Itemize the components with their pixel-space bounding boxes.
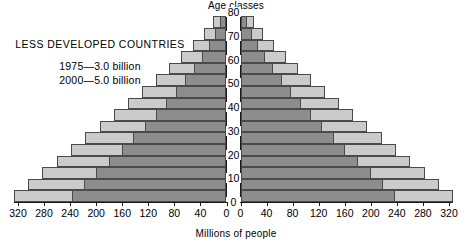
age-axis-tick-label: 20 (226, 150, 241, 160)
table-row (0, 51, 226, 63)
right-bar-1975 (241, 179, 383, 191)
pyramid-left-half (0, 12, 226, 202)
age-axis-tick-label: 40 (226, 102, 241, 112)
table-row (0, 98, 226, 110)
table-row (241, 132, 472, 144)
left-bar-1975 (215, 28, 226, 40)
left-bar-1975 (84, 179, 226, 191)
right-bar-1975 (241, 190, 395, 202)
left-bar-1975 (166, 98, 226, 110)
x-axis-line-left (14, 202, 227, 203)
left-bar-1975 (202, 51, 226, 63)
table-row (0, 167, 226, 179)
table-row (0, 86, 226, 98)
age-axis-tick-label: 60 (226, 55, 241, 65)
table-row (241, 121, 472, 133)
table-row (241, 74, 472, 86)
left-bar-1975 (96, 167, 226, 179)
table-row (0, 28, 226, 40)
x-axis-tick-label: 0 (224, 208, 230, 219)
table-row (241, 28, 472, 40)
population-pyramid-chart: Age classes LESS DEVELOPED COUNTRIES 197… (0, 0, 472, 248)
x-axis-tick-label: 120 (140, 208, 158, 219)
right-bar-1975 (241, 63, 273, 75)
x-axis-tick-label: 0 (238, 208, 244, 219)
x-axis-tick-label: 80 (287, 208, 299, 219)
table-row (241, 40, 472, 52)
table-row (241, 98, 472, 110)
left-bar-1975 (185, 74, 226, 86)
table-row (0, 74, 226, 86)
right-bar-1975 (241, 28, 252, 40)
x-axis-tick-label: 320 (440, 208, 458, 219)
x-axis-tick-label: 240 (61, 208, 79, 219)
table-row (241, 63, 472, 75)
left-bar-1975 (133, 132, 226, 144)
table-row (241, 109, 472, 121)
age-axis-tick-label: 80 (226, 7, 241, 17)
table-row (241, 16, 472, 28)
table-row (0, 63, 226, 75)
right-bar-1975 (241, 86, 291, 98)
right-bar-1975 (241, 74, 282, 86)
x-axis-tick-label: 40 (261, 208, 273, 219)
left-bar-1975 (209, 40, 226, 52)
table-row (0, 144, 226, 156)
left-bar-1975 (194, 63, 226, 75)
age-axis-tick-label: 30 (226, 126, 241, 136)
right-bar-1975 (241, 156, 358, 168)
right-bar-1975 (241, 109, 311, 121)
right-bar-1975 (241, 51, 265, 63)
left-bar-1975 (109, 156, 226, 168)
table-row (241, 190, 472, 202)
right-bar-1975 (241, 132, 334, 144)
age-axis-scale: 01020304050607080 (226, 12, 241, 202)
age-axis-tick-label: 10 (226, 173, 241, 183)
x-axis-tick-label: 280 (35, 208, 53, 219)
right-bar-1975 (241, 167, 371, 179)
age-axis-tick-label: 70 (226, 31, 241, 41)
table-row (241, 144, 472, 156)
x-axis-tick-label: 160 (113, 208, 131, 219)
left-bar-1975 (176, 86, 226, 98)
table-row (0, 121, 226, 133)
x-axis-tick-label: 80 (169, 208, 181, 219)
right-bar-1975 (241, 144, 345, 156)
table-row (241, 179, 472, 191)
table-row (241, 51, 472, 63)
left-bar-1975 (72, 190, 226, 202)
x-axis-title: Millions of people (0, 228, 472, 239)
x-axis-tick-label: 120 (310, 208, 328, 219)
left-bar-1975 (122, 144, 226, 156)
x-axis-tick-label: 160 (336, 208, 354, 219)
pyramid-right-half (241, 12, 472, 202)
table-row (241, 167, 472, 179)
table-row (0, 156, 226, 168)
table-row (0, 16, 226, 28)
x-axis-tick-label: 240 (388, 208, 406, 219)
x-axis-tick-label: 280 (414, 208, 432, 219)
right-bar-1975 (241, 98, 301, 110)
x-axis-tick-label: 200 (87, 208, 105, 219)
age-axis-tick-label: 50 (226, 78, 241, 88)
table-row (241, 156, 472, 168)
table-row (0, 190, 226, 202)
x-axis-tick-label: 40 (195, 208, 207, 219)
left-bar-1975 (145, 121, 226, 133)
x-axis-tick-label: 200 (362, 208, 380, 219)
right-bar-1975 (241, 40, 258, 52)
x-axis: 3202802402001601208040004080120160200240… (0, 202, 472, 226)
x-axis-line-right (240, 202, 453, 203)
table-row (0, 40, 226, 52)
table-row (0, 109, 226, 121)
right-bar-1975 (241, 16, 247, 28)
table-row (0, 132, 226, 144)
left-bar-1975 (156, 109, 226, 121)
table-row (0, 179, 226, 191)
table-row (241, 86, 472, 98)
right-bar-1975 (241, 121, 322, 133)
x-axis-tick-label: 320 (9, 208, 27, 219)
